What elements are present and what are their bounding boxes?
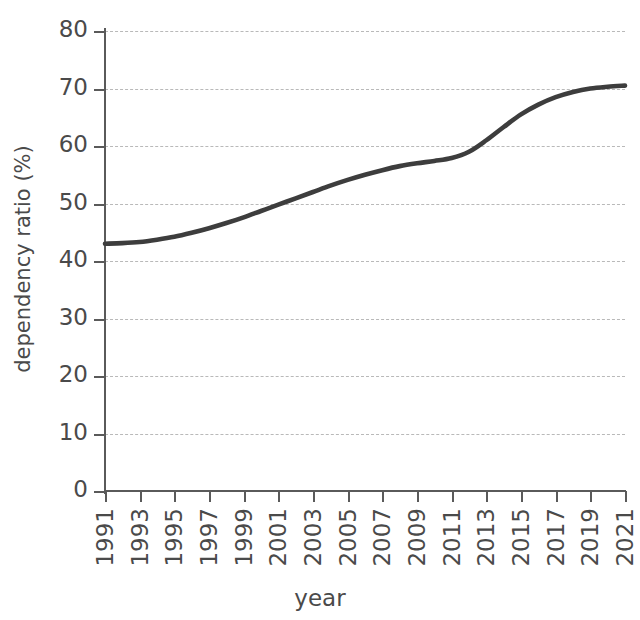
x-tick-label-1995: 1995	[162, 508, 186, 588]
x-tick-label-1997: 1997	[197, 508, 221, 588]
x-tick-label-1999: 1999	[232, 508, 256, 588]
y-tick-label-30: 30	[28, 306, 88, 329]
x-tick-label-2005: 2005	[336, 508, 360, 588]
y-tick-label-20: 20	[28, 363, 88, 386]
y-tick-label-50: 50	[28, 191, 88, 214]
y-tick-label-60: 60	[28, 133, 88, 156]
x-tick-2021	[625, 491, 627, 502]
x-tick-label-2001: 2001	[266, 508, 290, 588]
y-tick-label-0: 0	[28, 478, 88, 501]
gridline-20	[105, 376, 625, 377]
gridline-60	[105, 146, 625, 147]
x-tick-2005	[348, 491, 350, 502]
chart-figure: dependency ratio (%) 01020304050607080 1…	[0, 0, 640, 620]
x-tick-2007	[382, 491, 384, 502]
x-axis-title: year	[0, 585, 640, 611]
x-tick-label-2015: 2015	[509, 508, 533, 588]
x-tick-1997	[209, 491, 211, 502]
x-tick-2003	[313, 491, 315, 502]
x-tick-2019	[590, 491, 592, 502]
gridline-80	[105, 31, 625, 32]
y-axis-line	[104, 28, 106, 494]
x-tick-2001	[278, 491, 280, 502]
gridline-10	[105, 434, 625, 435]
y-tick-label-70: 70	[28, 76, 88, 99]
x-tick-2013	[486, 491, 488, 502]
x-tick-label-2021: 2021	[613, 508, 637, 588]
x-tick-label-2009: 2009	[405, 508, 429, 588]
x-tick-label-2019: 2019	[578, 508, 602, 588]
gridline-50	[105, 204, 625, 205]
x-tick-label-1993: 1993	[128, 508, 152, 588]
x-tick-2009	[417, 491, 419, 502]
x-tick-1995	[174, 491, 176, 502]
x-tick-2015	[521, 491, 523, 502]
gridline-30	[105, 319, 625, 320]
y-tick-label-80: 80	[28, 18, 88, 41]
gridline-70	[105, 89, 625, 90]
gridlines	[105, 31, 625, 491]
x-tick-label-2017: 2017	[544, 508, 568, 588]
gridline-40	[105, 261, 625, 262]
x-tick-label-2003: 2003	[301, 508, 325, 588]
x-tick-2011	[452, 491, 454, 502]
x-tick-label-2013: 2013	[474, 508, 498, 588]
y-tick-label-40: 40	[28, 248, 88, 271]
x-axis-line	[104, 490, 626, 492]
x-tick-1999	[244, 491, 246, 502]
x-tick-2017	[556, 491, 558, 502]
y-tick-label-10: 10	[28, 421, 88, 444]
x-tick-label-1991: 1991	[93, 508, 117, 588]
x-tick-label-2007: 2007	[370, 508, 394, 588]
x-tick-1993	[140, 491, 142, 502]
x-tick-label-2011: 2011	[440, 508, 464, 588]
